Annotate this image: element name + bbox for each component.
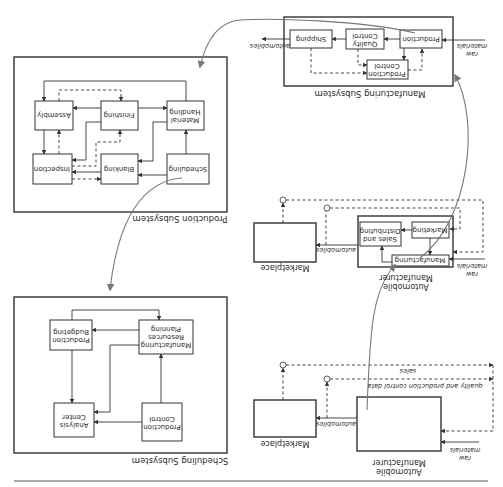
label-distributing: Distributing	[360, 227, 401, 235]
label-mid-raw: raw	[465, 270, 478, 278]
label-mid-automobile: Automobile	[383, 282, 429, 291]
label-production: Production	[402, 35, 439, 43]
label-material: Material	[171, 116, 199, 124]
label-sched-production-control-b: Control	[149, 415, 174, 423]
label-top-automobiles: automobiles	[315, 420, 356, 428]
hierarchical-manufacturing-diagram: Manufacturing Subsystem Production Quali…	[0, 0, 503, 487]
drilldown-curve-production-to-scheduling	[110, 178, 182, 290]
label-quality-data: quality and production control data	[367, 382, 482, 390]
label-mrp-b: Resources	[148, 333, 184, 341]
label-sched-production-control-a: Production	[143, 423, 180, 431]
label-mid-materials: materials	[456, 262, 487, 270]
scheduling-subsystem	[14, 297, 227, 453]
label-marketing: Marketing	[413, 226, 448, 234]
label-top-raw: raw	[458, 454, 471, 462]
production-subsystem	[14, 57, 227, 212]
label-production-control-a: Production	[368, 70, 405, 78]
top-level-model	[254, 362, 493, 451]
labels: Manufacturing Subsystem Production Quali…	[34, 32, 487, 476]
label-inspection: Inspection	[34, 165, 70, 173]
label-production-control-b: Control	[374, 62, 399, 70]
label-control: Control	[352, 32, 377, 40]
label-materials: materials	[456, 42, 487, 50]
label-raw: raw	[465, 50, 478, 58]
label-mid-marketplace: Marketplace	[260, 263, 309, 272]
label-shipping: Shipping	[296, 35, 327, 43]
label-top-manufacturer: Manufacturer	[371, 458, 425, 467]
label-scheduling: Scheduling	[169, 165, 208, 173]
scheduling-subsystem-title: Scheduling Subsystem	[132, 456, 229, 466]
label-sales-and: Sales and	[363, 235, 397, 243]
marketplace-box-middle	[254, 223, 316, 262]
label-mid-automobiles: automobiles	[315, 246, 356, 254]
label-automobiles: automobiles	[249, 42, 290, 50]
label-quality: Quality	[352, 40, 377, 48]
label-blanking: Blanking	[104, 165, 134, 173]
label-finishing: Finishing	[104, 111, 135, 119]
label-mid-manufacturer: Manufacturer	[378, 273, 432, 282]
label-assembly: Assembly	[37, 111, 71, 119]
label-mrp-c: Planning	[151, 325, 181, 333]
label-top-marketplace: Marketplace	[260, 439, 309, 448]
label-center: Center	[62, 413, 86, 421]
label-budgeting-b: Budgeting	[53, 328, 89, 336]
label-budgeting-a: Production	[52, 336, 89, 344]
label-manufacturing: Manufacturing	[395, 256, 446, 264]
label-top-materials: materials	[449, 446, 480, 454]
label-analysis: Analysis	[59, 421, 88, 429]
label-mrp-a: Manufacturing	[141, 341, 192, 349]
manufacturing-subsystem-title: Manufacturing Subsystem	[314, 89, 425, 99]
label-handling: Handling	[169, 108, 200, 116]
production-subsystem-title: Production Subsystem	[133, 214, 228, 224]
label-sales: sales	[399, 367, 416, 375]
label-top-automobile: Automobile	[376, 467, 422, 476]
